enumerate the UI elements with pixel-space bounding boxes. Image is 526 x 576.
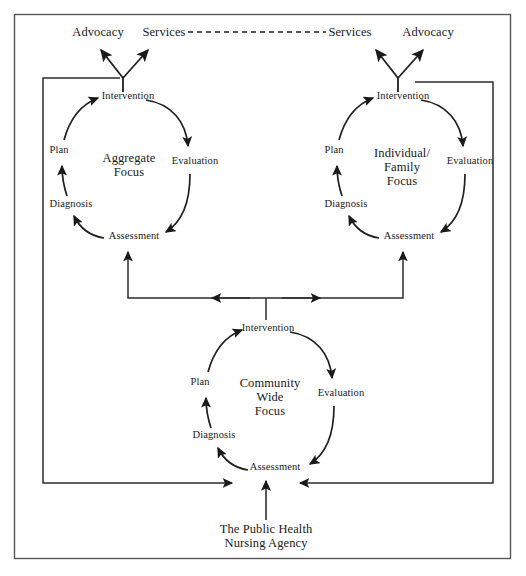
aggregate-focus-title: Aggregate Focus xyxy=(103,151,156,179)
community-wide-focus-title-line1: Community xyxy=(240,376,301,390)
agency-label-line2: Nursing Agency xyxy=(220,536,313,550)
aggregate-step-diagnosis: Diagnosis xyxy=(50,198,93,210)
figure-canvas: Advocacy Services Services Advocacy Inte… xyxy=(0,0,526,576)
agency-label: The Public Health Nursing Agency xyxy=(220,522,313,550)
feedback-path-right xyxy=(300,82,493,483)
aggregate-step-evaluation: Evaluation xyxy=(172,155,219,167)
output-services-right: Services xyxy=(328,25,371,39)
agency-label-line1: The Public Health xyxy=(220,522,313,536)
individual-family-focus-title: Individual/ Family Focus xyxy=(374,146,430,188)
outer-border xyxy=(15,15,511,559)
community-wide-focus-title: Community Wide Focus xyxy=(240,376,301,418)
aggregate-focus-title-line1: Aggregate xyxy=(103,151,156,165)
community-wide-focus-title-line3: Focus xyxy=(240,404,301,418)
community-wide-focus-title-line2: Wide xyxy=(240,390,301,404)
community-to-upper-cycles-connector xyxy=(128,252,403,320)
community-wide-step-assessment: Assessment xyxy=(250,461,301,473)
aggregate-focus-title-line2: Focus xyxy=(103,165,156,179)
individual-family-focus-title-line3: Focus xyxy=(374,174,430,188)
aggregate-step-plan: Plan xyxy=(49,144,68,156)
aggregate-step-assessment: Assessment xyxy=(109,230,160,242)
individual-family-step-intervention: Intervention xyxy=(377,90,430,102)
aggregate-outputs-branch xyxy=(101,50,148,92)
output-advocacy-left: Advocacy xyxy=(72,25,123,39)
community-wide-step-intervention: Intervention xyxy=(242,322,295,334)
aggregate-step-intervention: Intervention xyxy=(102,90,155,102)
output-services-left: Services xyxy=(142,25,185,39)
individual-family-focus-title-line2: Family xyxy=(374,160,430,174)
individual-family-outputs-branch xyxy=(376,50,423,92)
community-wide-step-plan: Plan xyxy=(190,376,209,388)
individual-family-step-plan: Plan xyxy=(324,144,343,156)
feedback-path-left xyxy=(43,78,232,483)
individual-family-focus-title-line1: Individual/ xyxy=(374,146,430,160)
output-advocacy-right: Advocacy xyxy=(402,25,453,39)
community-wide-step-diagnosis: Diagnosis xyxy=(193,429,236,441)
individual-family-step-diagnosis: Diagnosis xyxy=(325,198,368,210)
community-wide-step-evaluation: Evaluation xyxy=(318,387,365,399)
individual-family-step-evaluation: Evaluation xyxy=(447,155,494,167)
individual-family-step-assessment: Assessment xyxy=(384,230,435,242)
diagram-vector-layer xyxy=(0,0,526,576)
